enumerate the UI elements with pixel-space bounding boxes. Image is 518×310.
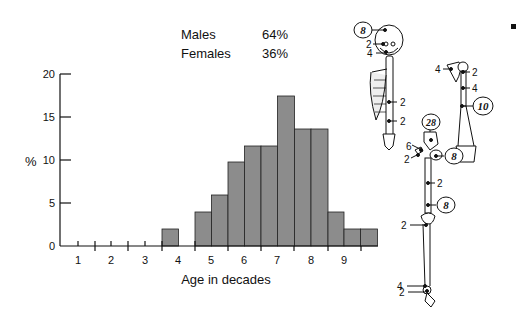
x-axis-label: Age in decades <box>181 272 271 287</box>
bar-3.5 <box>162 229 179 246</box>
x-tick-7: 7 <box>274 254 280 266</box>
x-tick-8: 8 <box>308 254 314 266</box>
bar-8.0 <box>311 129 328 246</box>
label-spine-thoracic: 2 <box>400 97 406 108</box>
legend-label-males: Males <box>181 27 216 42</box>
bar-5.0 <box>212 195 229 246</box>
y-tick-0: 0 <box>49 240 55 252</box>
legend-label-females: Females <box>181 46 231 61</box>
label-pelvis-b: 2 <box>404 154 410 165</box>
x-tick-9: 9 <box>341 254 347 266</box>
label-ankle: 2 <box>399 287 405 298</box>
legend-value-males: 64% <box>262 27 288 42</box>
bar-7.5 <box>295 129 312 246</box>
bar-6.5 <box>261 146 278 246</box>
bar-9.0 <box>344 229 361 246</box>
bar-8.5 <box>328 212 344 246</box>
label-femur-distal: 8 <box>443 199 449 211</box>
bar-7.0 <box>278 96 295 246</box>
figure: Males 64% Females 36% 0 5 10 15 20 % <box>0 0 518 310</box>
corner-marker <box>511 24 516 29</box>
label-humerus-distal: 10 <box>478 100 490 112</box>
skeleton-axial-illustration <box>354 22 403 150</box>
label-femur-proximal: 8 <box>451 150 457 162</box>
x-tick-4: 4 <box>175 254 181 266</box>
y-axis-label: % <box>25 154 37 169</box>
legend: Males 64% Females 36% <box>181 27 288 61</box>
label-tibia-proximal: 2 <box>401 220 407 231</box>
y-tick-15: 15 <box>43 111 55 123</box>
bar-9.5 <box>361 229 378 246</box>
bar-4.5 <box>195 212 212 246</box>
y-axis <box>60 74 71 246</box>
label-femur-shaft: 2 <box>437 178 443 189</box>
label-scapula: 4 <box>435 64 441 75</box>
skeleton-arm-illustration <box>443 62 493 162</box>
label-pelvis-a: 6 <box>406 141 412 152</box>
label-pelvis: 28 <box>425 117 436 128</box>
label-mandible: 4 <box>367 48 373 59</box>
legend-value-females: 36% <box>262 46 288 61</box>
skeleton-leg-illustration <box>407 114 463 307</box>
bar-6.0 <box>245 146 262 246</box>
y-tick-20: 20 <box>43 68 55 80</box>
label-humerus-shaft: 4 <box>472 83 478 94</box>
x-tick-3: 3 <box>142 254 148 266</box>
label-humerus-proximal: 2 <box>472 67 478 78</box>
x-tick-labels: 1 2 3 4 5 6 7 8 9 <box>75 254 347 266</box>
x-tick-5: 5 <box>208 254 214 266</box>
y-tick-5: 5 <box>49 197 55 209</box>
y-tick-labels: 0 5 10 15 20 <box>43 68 55 252</box>
bars <box>162 96 378 246</box>
bar-5.5 <box>228 162 245 246</box>
y-tick-10: 10 <box>43 154 55 166</box>
x-tick-6: 6 <box>241 254 247 266</box>
label-skull: 8 <box>360 24 366 36</box>
x-tick-2: 2 <box>108 254 114 266</box>
label-spine-lumbar: 2 <box>400 116 406 127</box>
x-tick-1: 1 <box>75 254 81 266</box>
